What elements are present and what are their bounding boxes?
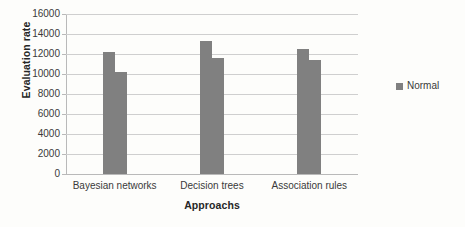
- y-axis-tick-mark: [62, 134, 66, 135]
- y-axis-tick-mark: [62, 34, 66, 35]
- bar: [200, 41, 212, 174]
- y-axis-tick-label: 8000: [24, 89, 60, 99]
- bar: [103, 52, 115, 174]
- y-axis-tick-label: 14000: [24, 29, 60, 39]
- plot-area: [66, 14, 358, 174]
- y-axis-tick-label: 10000: [24, 69, 60, 79]
- chart-legend: Normal: [396, 81, 439, 91]
- y-axis-tick-label: 4000: [24, 129, 60, 139]
- gridline: [66, 174, 358, 175]
- y-axis-tick-mark: [62, 94, 66, 95]
- y-axis-tick-labels: 1600014000120001000080006000400020000: [24, 14, 60, 174]
- y-axis-tick-mark: [62, 174, 66, 175]
- bar: [115, 72, 127, 174]
- y-axis-tick-mark: [62, 74, 66, 75]
- y-axis-tick-mark: [62, 54, 66, 55]
- legend-swatch-normal: [396, 83, 403, 90]
- y-axis-tick-mark: [62, 14, 66, 15]
- y-axis-tick-label: 16000: [24, 9, 60, 19]
- bar: [297, 49, 309, 174]
- legend-label-normal: Normal: [407, 81, 439, 91]
- y-axis-tick-mark: [62, 154, 66, 155]
- y-axis-tick-label: 0: [24, 169, 60, 179]
- x-axis-title: Approachs: [66, 199, 358, 211]
- y-axis-tick-label: 12000: [24, 49, 60, 59]
- bar-group: [103, 14, 127, 174]
- bar-group: [297, 14, 321, 174]
- y-axis-tick-mark: [62, 114, 66, 115]
- bar: [309, 60, 321, 174]
- y-axis-tick-label: 6000: [24, 109, 60, 119]
- bar-group: [200, 14, 224, 174]
- x-axis-tick-label: Association rules: [249, 180, 369, 192]
- bar-chart: Evaluation rate 160001400012000100008000…: [0, 0, 465, 227]
- bar: [212, 58, 224, 174]
- y-axis-tick-label: 2000: [24, 149, 60, 159]
